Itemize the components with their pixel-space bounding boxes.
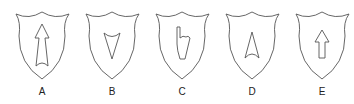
option-label: D (217, 86, 287, 97)
long-arrow-up-icon (35, 24, 49, 66)
option-d[interactable]: D (217, 0, 287, 104)
option-b[interactable]: B (77, 0, 147, 104)
option-label: C (147, 86, 217, 97)
option-label: E (287, 86, 354, 97)
arrowhead-up-icon (245, 32, 259, 58)
option-label: A (7, 86, 77, 97)
option-a[interactable]: A (7, 0, 77, 104)
pointing-hand-icon (177, 27, 190, 59)
option-e[interactable]: E (287, 0, 354, 104)
downward-triangle-icon (104, 33, 120, 59)
option-c[interactable]: C (147, 0, 217, 104)
option-label: B (77, 86, 147, 97)
block-arrow-up-icon (315, 30, 329, 58)
